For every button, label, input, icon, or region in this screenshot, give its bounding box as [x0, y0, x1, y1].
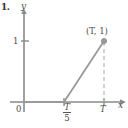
- curve-ramp-segment: [64, 41, 104, 102]
- endpoint-marker: [101, 38, 106, 43]
- x-axis-label: x: [118, 100, 123, 110]
- x-tick-label-t-over-5: T 5: [60, 103, 74, 122]
- y-tick-label-1: 1: [13, 36, 18, 46]
- math-figure: 1. y x 1 0 T 5 T (T, 1): [0, 0, 128, 128]
- x-tick-label-t: T: [100, 104, 106, 114]
- endpoint-coordinate-label: (T, 1): [86, 26, 108, 36]
- fraction-denominator: 5: [60, 114, 74, 123]
- y-axis-label: y: [21, 1, 26, 11]
- origin-label: 0: [16, 104, 21, 114]
- fraction-numerator: T: [60, 103, 74, 112]
